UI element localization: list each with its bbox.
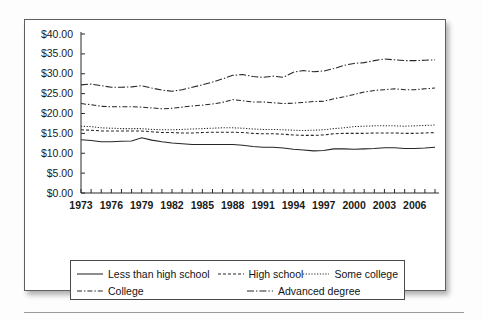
x-tick-label: 2006 bbox=[403, 199, 427, 211]
y-tick-label: $5.00 bbox=[47, 167, 73, 179]
legend-row: College Advanced degree bbox=[77, 282, 398, 299]
legend-label: High school bbox=[249, 268, 304, 280]
data-series-group bbox=[81, 59, 435, 151]
y-tick-label: $10.00 bbox=[41, 147, 73, 159]
legend-item-college: College bbox=[77, 285, 247, 297]
x-tick-label: 1982 bbox=[160, 199, 184, 211]
line-chart: $40.00$35.00$30.00$25.00$20.00$15.00$10.… bbox=[25, 20, 447, 235]
legend-item-some-college: Some college bbox=[303, 268, 398, 280]
x-tick-label: 1991 bbox=[251, 199, 275, 211]
x-tick-label: 1976 bbox=[100, 199, 124, 211]
legend-label: Advanced degree bbox=[278, 285, 360, 297]
y-axis-ticks bbox=[81, 34, 85, 193]
legend-swatch-long-dash-dot bbox=[247, 286, 273, 296]
y-tick-label: $20.00 bbox=[41, 107, 73, 119]
series-line-less-than-high-school bbox=[81, 138, 435, 151]
legend-swatch-dotted bbox=[303, 269, 329, 279]
x-tick-label: 1994 bbox=[282, 199, 306, 211]
x-axis-labels: 1973197619791982198519881991199419972000… bbox=[69, 199, 426, 211]
x-tick-label: 1997 bbox=[312, 199, 336, 211]
y-tick-label: $25.00 bbox=[41, 87, 73, 99]
series-line-high-school bbox=[81, 130, 435, 136]
legend-item-less-than-high-school: Less than high school bbox=[77, 268, 218, 280]
series-line-college bbox=[81, 88, 435, 109]
legend-label: Some college bbox=[334, 268, 398, 280]
y-tick-label: $35.00 bbox=[41, 47, 73, 59]
legend-label: College bbox=[108, 285, 144, 297]
legend-row: Less than high school High school Some c… bbox=[77, 265, 398, 282]
chart-figure: $40.00$35.00$30.00$25.00$20.00$15.00$10.… bbox=[24, 19, 446, 291]
y-tick-label: $15.00 bbox=[41, 127, 73, 139]
chart-legend: Less than high school High school Some c… bbox=[70, 260, 405, 300]
legend-item-advanced-degree: Advanced degree bbox=[247, 285, 360, 297]
legend-item-high-school: High school bbox=[218, 268, 304, 280]
x-tick-label: 2000 bbox=[342, 199, 366, 211]
y-axis-labels: $40.00$35.00$30.00$25.00$20.00$15.00$10.… bbox=[41, 28, 73, 199]
page-bottom-rule bbox=[24, 312, 464, 313]
legend-swatch-dashed bbox=[218, 269, 244, 279]
y-tick-label: $0.00 bbox=[47, 187, 73, 199]
y-tick-label: $30.00 bbox=[41, 67, 73, 79]
legend-swatch-dash-dot bbox=[77, 286, 103, 296]
legend-swatch-solid bbox=[77, 269, 103, 279]
x-tick-label: 1979 bbox=[130, 199, 154, 211]
series-line-some-college bbox=[81, 125, 435, 131]
x-tick-label: 1988 bbox=[221, 199, 245, 211]
legend-label: Less than high school bbox=[108, 268, 210, 280]
x-axis-minor-ticks bbox=[81, 189, 435, 193]
x-tick-label: 2003 bbox=[373, 199, 397, 211]
chart-plot-area: $40.00$35.00$30.00$25.00$20.00$15.00$10.… bbox=[25, 20, 447, 235]
series-line-advanced-degree bbox=[81, 59, 435, 91]
x-tick-label: 1973 bbox=[69, 199, 93, 211]
x-tick-label: 1985 bbox=[191, 199, 215, 211]
y-tick-label: $40.00 bbox=[41, 28, 73, 40]
